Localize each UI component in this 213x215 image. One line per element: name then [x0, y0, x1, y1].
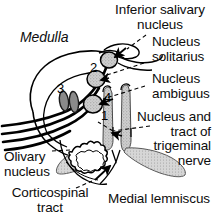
- label-trigeminal-nucleus-and-tract: Nucleus and tract of trigeminal nerve: [105, 110, 211, 168]
- callout-number-3: 3: [57, 81, 64, 96]
- medulla-diagram-figure: Medulla Inferior salivary nucleus Nucleu…: [0, 0, 213, 215]
- medulla-region-label: Medulla: [20, 30, 68, 45]
- label-medial-lemniscus: Medial lemniscus: [108, 192, 210, 207]
- label-nucleus-solitarius: Nucleus solitarius: [152, 35, 204, 64]
- label-inferior-salivary-nucleus: Inferior salivary nucleus: [110, 3, 210, 32]
- callout-number-4: 4: [104, 90, 111, 105]
- callout-number-1: 1: [101, 108, 108, 123]
- callout-number-2: 2: [90, 60, 97, 75]
- label-corticospinal-tract: Corticospinal tract: [2, 186, 98, 215]
- label-olivary-nucleus: Olivary nucleus: [4, 150, 50, 179]
- label-nucleus-ambiguus: Nucleus ambiguus: [152, 72, 210, 101]
